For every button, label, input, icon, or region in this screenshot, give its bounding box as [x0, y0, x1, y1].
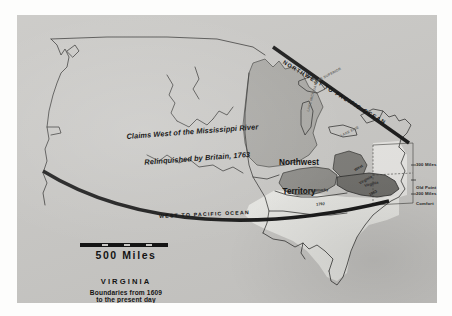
northwest-territory-label-line1: Northwest — [279, 158, 319, 168]
map-subtitle-line2: to the present day — [72, 296, 180, 303]
map-subtitle-line1: Boundaries from 1609 — [72, 289, 180, 296]
scale-bar-block: 500 Miles — [80, 243, 172, 261]
scale-bar-tick-1 — [102, 244, 108, 246]
scale-bar-graphic — [80, 243, 168, 247]
callout-old-point-comfort-line1: Old Point — [416, 185, 436, 190]
callout-old-point-comfort-line2: Comfort — [416, 201, 436, 206]
scale-bar-tick-2 — [124, 244, 130, 246]
callout-300-miles: 300 Miles — [416, 162, 436, 167]
callout-200-miles: 200 Miles — [416, 191, 436, 196]
region-label-kentucky-year: 1792 — [312, 202, 330, 208]
claims-annotation: Claims West of the Mississippi River Rel… — [125, 106, 262, 185]
region-label-west-virginia-year: 1863 — [366, 187, 381, 198]
region-label-west-virginia-line1: West — [352, 163, 367, 174]
region-label-kentucky: Kentucky 1792 — [310, 179, 330, 218]
scale-bar-tick-3 — [146, 244, 152, 246]
map-page: Claims West of the Mississippi River Rel… — [0, 0, 452, 316]
scale-bar-label: 500 Miles — [80, 249, 172, 261]
claims-annotation-line1: Claims West of the Mississippi River — [126, 124, 258, 142]
region-label-kentucky-name: Kentucky — [311, 188, 329, 194]
map-panel: Claims West of the Mississippi River Rel… — [17, 15, 437, 303]
map-title-block: VIRGINIA Boundaries from 1609 to the pre… — [72, 277, 180, 303]
map-title: VIRGINIA — [72, 277, 180, 286]
claims-annotation-line2: Relinquished by Britain, 1763 — [134, 150, 260, 168]
